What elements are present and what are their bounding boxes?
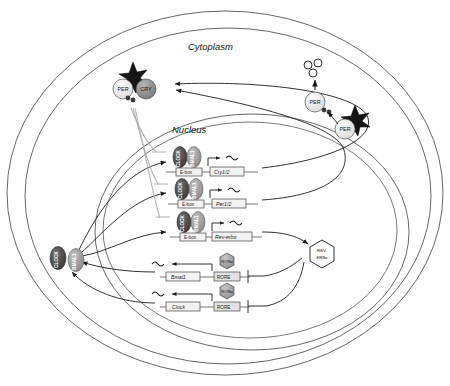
circadian-clock-diagram: Cytoplasm Nucleus bbox=[0, 0, 450, 386]
ebox-label-reverba: E-box bbox=[184, 235, 197, 240]
per-label-phospho: PER bbox=[309, 99, 320, 105]
ebox-gene-unit-reverba: E-box Rev-erbα CLOCK BMAL1 bbox=[170, 212, 262, 242]
bmal1-oval-label-cry12: BMAL1 bbox=[190, 150, 195, 167]
clock-oval-label-reverba: CLOCK bbox=[180, 215, 185, 232]
gene-label-per12: Per1/2 bbox=[216, 201, 231, 207]
nucleus-label: Nucleus bbox=[172, 124, 207, 135]
gene-label-clock: Clock bbox=[172, 304, 185, 310]
gene-label-reverba: Rev-erbα bbox=[215, 234, 237, 240]
ckie-label-complex: CKIe bbox=[128, 75, 139, 80]
reverb-inhibition-arrows bbox=[264, 258, 304, 306]
clock-oval-label-per12: CLOCK bbox=[178, 182, 183, 199]
percry-inhibition-bars bbox=[152, 152, 170, 217]
ebox-gene-unit-per12: E-box Per1/2 CLOCK BMAL1 bbox=[168, 179, 258, 209]
per-label-complex: PER bbox=[117, 86, 128, 92]
reverb-label-line1: REV- bbox=[317, 248, 327, 253]
bmal1-oval-label-reverba: BMAL1 bbox=[194, 215, 199, 232]
free-bmal1-label: BMAL1 bbox=[72, 253, 77, 270]
inhibition-bar-bmal1 bbox=[248, 270, 264, 283]
percry-inhibition-lines bbox=[131, 108, 160, 218]
rora-hexagon-label-bmal1: RORα bbox=[221, 259, 233, 264]
inhibition-bar-clock bbox=[248, 300, 266, 313]
cell-membrane-outer bbox=[7, 11, 443, 375]
cell-membrane-inner bbox=[25, 28, 431, 364]
bmal1-oval-label-per12: BMAL1 bbox=[192, 182, 197, 199]
rore-label-bmal1: RORE bbox=[217, 275, 230, 280]
gene-label-cry12: Cry1/2 bbox=[214, 169, 229, 175]
ebox-label-per12: E-box bbox=[182, 202, 195, 207]
per-ckie-complex: CKIe PER bbox=[335, 105, 370, 139]
per-cry-ckie-complex: CKIe PER CRY bbox=[113, 62, 156, 102]
free-clock-label: CLOCK bbox=[54, 251, 59, 268]
rore-gene-unit-bmal1: Bmal1 RORE RORα bbox=[152, 253, 250, 281]
clock-oval-label-cry12: CLOCK bbox=[176, 150, 181, 167]
ebox-gene-unit-cry12: E-box Cry1/2 CLOCK BMAL1 bbox=[166, 147, 258, 177]
rore-gene-unit-clock: Clock RORE RORα bbox=[152, 283, 250, 311]
rora-hexagon-label-clock: RORα bbox=[221, 289, 233, 294]
per-label-right: PER bbox=[339, 126, 350, 132]
reverb-label-line2: ERBα bbox=[316, 255, 328, 260]
gene-label-bmal1: Bmal1 bbox=[171, 274, 186, 280]
degradation-products bbox=[304, 59, 322, 77]
per-phosphorylation-arrow bbox=[328, 112, 338, 124]
free-bmal1-protein: BMAL1 bbox=[68, 249, 84, 272]
free-clock-protein: CLOCK bbox=[50, 247, 66, 270]
cytoplasm-label: Cytoplasm bbox=[188, 41, 233, 52]
clockbmal-to-ebox-arrows bbox=[78, 162, 166, 256]
rore-output-to-proteins-arrows bbox=[72, 262, 155, 303]
cry-label-complex: CRY bbox=[140, 86, 152, 92]
ebox-label-cry12: E-box bbox=[180, 170, 193, 175]
reverb-alpha-hexagon: REV- ERBα bbox=[310, 240, 334, 268]
rore-label-clock: RORE bbox=[217, 305, 230, 310]
